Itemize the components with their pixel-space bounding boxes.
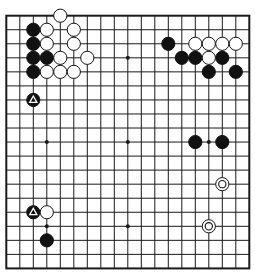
go-board-canvas[interactable] — [0, 0, 255, 277]
white-stone[interactable] — [40, 23, 53, 36]
black-stone[interactable] — [27, 23, 40, 36]
white-stone-circle-marked[interactable] — [202, 220, 215, 233]
white-stone[interactable] — [229, 37, 242, 50]
star-point — [45, 224, 49, 228]
black-stone[interactable] — [202, 65, 215, 78]
white-stone[interactable] — [202, 37, 215, 50]
black-stone[interactable] — [216, 51, 229, 64]
white-stone-circle-marked[interactable] — [216, 178, 229, 191]
white-stone[interactable] — [54, 65, 67, 78]
white-stone[interactable] — [67, 65, 80, 78]
white-stone[interactable] — [67, 23, 80, 36]
white-stone[interactable] — [40, 65, 53, 78]
white-stone[interactable] — [54, 51, 67, 64]
black-stone[interactable] — [27, 51, 40, 64]
white-stone[interactable] — [67, 37, 80, 50]
white-stone[interactable] — [54, 9, 67, 22]
black-stone[interactable] — [162, 37, 175, 50]
black-stone[interactable] — [189, 135, 202, 148]
black-stone[interactable] — [40, 234, 53, 247]
white-stone[interactable] — [202, 51, 215, 64]
black-stone[interactable] — [216, 135, 229, 148]
black-stone-triangle-marked[interactable] — [27, 206, 40, 219]
star-point — [126, 224, 130, 228]
star-point — [126, 56, 130, 60]
black-stone[interactable] — [27, 65, 40, 78]
black-stone[interactable] — [27, 37, 40, 50]
white-stone[interactable] — [81, 51, 94, 64]
white-stone[interactable] — [40, 37, 53, 50]
black-stone[interactable] — [229, 65, 242, 78]
white-stone[interactable] — [40, 206, 53, 219]
black-stone[interactable] — [175, 51, 188, 64]
star-point — [207, 140, 211, 144]
black-stone[interactable] — [189, 51, 202, 64]
black-stone-triangle-marked[interactable] — [27, 93, 40, 106]
white-stone[interactable] — [216, 37, 229, 50]
black-stone[interactable] — [40, 51, 53, 64]
go-board[interactable] — [0, 0, 255, 277]
star-point — [126, 140, 130, 144]
star-point — [45, 140, 49, 144]
white-stone[interactable] — [189, 37, 202, 50]
